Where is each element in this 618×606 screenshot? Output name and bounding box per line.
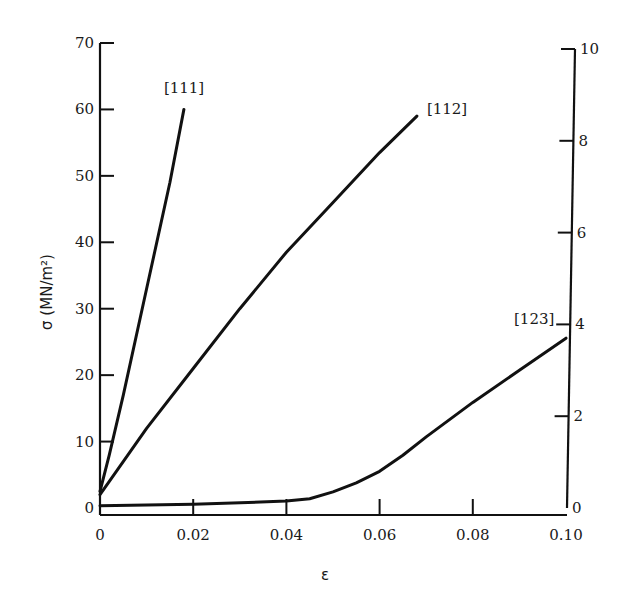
y-tick-label-left: 60 bbox=[75, 100, 94, 118]
y-ticks-left: 010203040506070 bbox=[75, 34, 114, 517]
stress-strain-chart: 00.020.040.060.080.10 010203040506070 02… bbox=[0, 0, 618, 606]
series-label-111: [111] bbox=[164, 79, 204, 97]
y-tick-label-right: 2 bbox=[574, 407, 584, 425]
y-tick-label-left: 10 bbox=[75, 433, 94, 451]
y-tick-label-left: 30 bbox=[75, 300, 94, 318]
y-tick-label-right: 8 bbox=[578, 132, 588, 150]
curve-112 bbox=[100, 116, 417, 495]
y-tick-label-left: 0 bbox=[84, 499, 94, 517]
x-axis-title: ε bbox=[321, 566, 329, 584]
y-tick-label-left: 70 bbox=[75, 34, 94, 52]
x-tick-label: 0.06 bbox=[363, 526, 396, 544]
series-labels: [111][112][123] bbox=[164, 79, 554, 328]
x-tick-label: 0.08 bbox=[456, 526, 489, 544]
y-tick-label-left: 40 bbox=[75, 233, 94, 251]
x-tick-label: 0.02 bbox=[176, 526, 209, 544]
series-label-123: [123] bbox=[514, 310, 554, 328]
y-tick-label-left: 20 bbox=[75, 366, 94, 384]
y-tick-label-right: 4 bbox=[575, 315, 585, 333]
curves bbox=[100, 109, 566, 505]
y-ticks-right: 0246810 bbox=[555, 40, 599, 517]
y-tick-label-left: 50 bbox=[75, 167, 94, 185]
y-tick-label-right: 6 bbox=[577, 224, 587, 242]
curve-123 bbox=[100, 338, 566, 506]
y-tick-label-right: 0 bbox=[572, 499, 582, 517]
axes bbox=[100, 43, 575, 515]
x-tick-label: 0.04 bbox=[270, 526, 303, 544]
x-tick-label: 0 bbox=[95, 526, 105, 544]
x-tick-label: 0.10 bbox=[549, 526, 582, 544]
series-label-112: [112] bbox=[427, 100, 467, 118]
y-axis-title: σ (MN/m²) bbox=[38, 254, 56, 330]
right-y-axis bbox=[567, 49, 575, 508]
y-tick-label-right: 10 bbox=[580, 40, 599, 58]
